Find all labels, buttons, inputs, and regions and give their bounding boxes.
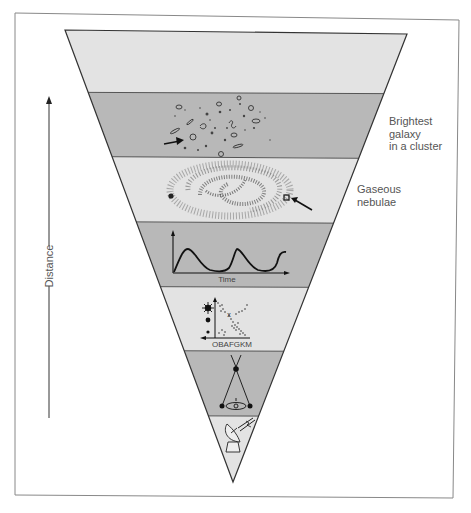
band-6-parallax <box>0 350 471 417</box>
label-in-a-cluster: in a cluster <box>389 140 443 152</box>
label-nebulae: nebulae <box>357 196 396 208</box>
distance-ladder-figure: Time x OBAFGKM <box>0 0 471 513</box>
distance-axis-label: Distance <box>43 245 55 288</box>
diagram-canvas: Time x OBAFGKM <box>0 0 471 513</box>
distance-arrow-head-icon <box>46 96 52 104</box>
label-brightest: Brightest <box>389 115 432 127</box>
nebulae-label: Gaseous nebulae <box>357 183 402 208</box>
nebula-left-dot <box>168 193 173 198</box>
hr-sun-marker: x <box>227 311 231 318</box>
label-gaseous: Gaseous <box>357 183 402 195</box>
time-axis-label: Time <box>218 275 236 284</box>
galaxy-cluster-label: Brightest galaxy in a cluster <box>389 115 443 152</box>
label-galaxy: galaxy <box>389 128 421 140</box>
spectral-class-label: OBAFGKM <box>212 340 252 349</box>
